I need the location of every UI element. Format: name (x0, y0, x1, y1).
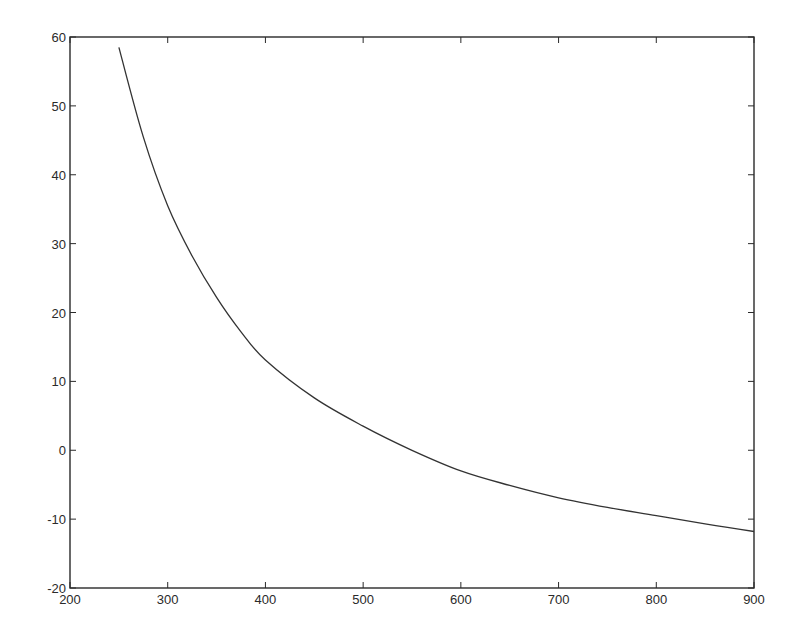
y-tick-label: 20 (52, 306, 66, 321)
x-tick-label: 800 (645, 592, 667, 607)
x-tick-label: 900 (743, 592, 765, 607)
x-tick-label: 600 (450, 592, 472, 607)
y-tick-label: 10 (52, 374, 66, 389)
plot-border (70, 37, 754, 588)
y-tick-label: 60 (52, 30, 66, 45)
y-tick-label: 50 (52, 99, 66, 114)
y-tick-label: -10 (47, 512, 66, 527)
line-chart: 200300400500600700800900 -20-10010203040… (0, 0, 805, 642)
x-tick-label: 300 (157, 592, 179, 607)
y-axis-ticks: -20-100102030405060 (47, 30, 754, 596)
y-tick-label: 0 (59, 443, 66, 458)
x-tick-label: 400 (255, 592, 277, 607)
x-axis-ticks: 200300400500600700800900 (59, 37, 765, 607)
x-tick-label: 500 (352, 592, 374, 607)
x-tick-label: 700 (548, 592, 570, 607)
data-series (119, 47, 754, 531)
series-line (119, 47, 754, 531)
y-tick-label: -20 (47, 581, 66, 596)
y-tick-label: 40 (52, 168, 66, 183)
y-tick-label: 30 (52, 237, 66, 252)
plot-frame (70, 37, 754, 588)
